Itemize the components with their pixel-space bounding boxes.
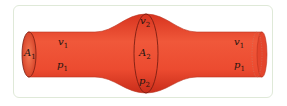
label-p1-right: p1 bbox=[234, 59, 245, 73]
label-a2: A2 bbox=[139, 47, 151, 61]
label-p2: p2 bbox=[139, 75, 150, 89]
label-v1-right: v1 bbox=[234, 36, 244, 50]
label-v1-left: v1 bbox=[58, 36, 68, 50]
label-p1-left: p1 bbox=[57, 59, 68, 73]
label-a1: A1 bbox=[24, 47, 36, 61]
label-v2: v2 bbox=[140, 15, 150, 29]
